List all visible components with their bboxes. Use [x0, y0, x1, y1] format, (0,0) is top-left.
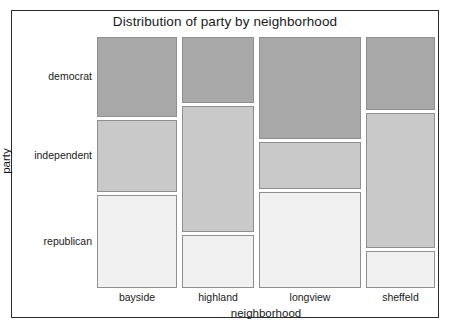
- mosaic-column-longview: [259, 37, 361, 288]
- x-axis-title: neighborhood: [97, 307, 435, 319]
- mosaic-tile-longview-republican[interactable]: [259, 192, 361, 288]
- mosaic-tile-sheffeld-republican[interactable]: [366, 251, 435, 288]
- y-tick-label-republican: republican: [44, 235, 92, 247]
- plot-panel: [97, 37, 435, 288]
- mosaic-tile-highland-republican[interactable]: [182, 235, 254, 288]
- mosaic-tile-highland-democrat[interactable]: [182, 37, 254, 103]
- mosaic-tile-bayside-democrat[interactable]: [97, 37, 177, 117]
- mosaic-column-bayside: [97, 37, 177, 288]
- y-axis-tick-labels: democratindependentrepublican: [0, 0, 92, 330]
- mosaic-tile-sheffeld-democrat[interactable]: [366, 37, 435, 110]
- y-axis-title: party: [0, 148, 12, 174]
- mosaic-tile-bayside-independent[interactable]: [97, 120, 177, 192]
- mosaic-tile-bayside-republican[interactable]: [97, 195, 177, 288]
- x-tick-label-sheffeld: sheffeld: [340, 291, 449, 303]
- mosaic-plot: Distribution of party by neighborhood ba…: [0, 0, 449, 330]
- mosaic-tile-highland-independent[interactable]: [182, 106, 254, 232]
- mosaic-tile-longview-democrat[interactable]: [259, 37, 361, 139]
- y-tick-label-democrat: democrat: [48, 70, 92, 82]
- mosaic-tile-longview-independent[interactable]: [259, 142, 361, 190]
- mosaic-column-sheffeld: [366, 37, 435, 288]
- mosaic-column-highland: [182, 37, 254, 288]
- y-tick-label-independent: independent: [34, 149, 92, 161]
- mosaic-tile-sheffeld-independent[interactable]: [366, 113, 435, 248]
